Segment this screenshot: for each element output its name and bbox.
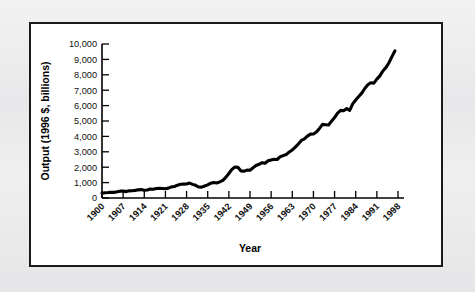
y-axis-tick-labels: 01,0002,0003,0004,0005,0006,0007,0008,00…	[69, 39, 97, 203]
y-axis-title: Output (1996 $, billions)	[39, 61, 51, 180]
line-chart: 01,0002,0003,0004,0005,0006,0007,0008,00…	[31, 24, 441, 265]
plot-area: 01,0002,0003,0004,0005,0006,0007,0008,00…	[31, 24, 441, 265]
x-tick-label: 1928	[169, 201, 191, 223]
y-tick-label: 8,000	[74, 70, 97, 80]
x-tick-label: 1921	[148, 201, 170, 223]
x-tick-label: 1998	[381, 201, 403, 223]
x-tick-label: 1942	[212, 201, 234, 223]
y-tick-label: 5,000	[74, 116, 97, 126]
x-tick-label: 1949	[233, 201, 255, 223]
x-tick-label: 1914	[127, 201, 149, 223]
y-tick-label: 6,000	[74, 101, 97, 111]
x-tick-label: 1970	[296, 201, 318, 223]
figure-frame: 01,0002,0003,0004,0005,0006,0007,0008,00…	[29, 22, 443, 267]
x-tick-label: 1991	[360, 201, 382, 223]
y-tick-label: 9,000	[74, 55, 97, 65]
y-tick-label: 2,000	[74, 163, 97, 173]
x-tick-label: 1907	[106, 201, 128, 223]
output-series-line	[102, 51, 395, 193]
x-tick-label: 1956	[254, 201, 276, 223]
x-axis-tick-labels: 1900190719141921192819351942194919561963…	[85, 201, 403, 223]
x-axis-ticks	[102, 191, 398, 198]
x-tick-label: 1935	[191, 201, 213, 223]
x-tick-label: 1900	[85, 201, 107, 223]
y-tick-label: 7,000	[74, 86, 97, 96]
y-tick-label: 3,000	[74, 147, 97, 157]
x-tick-label: 1963	[275, 201, 297, 223]
x-tick-label: 1977	[317, 201, 339, 223]
x-axis-title: Year	[239, 242, 261, 254]
x-tick-label: 1984	[339, 201, 361, 223]
y-axis-ticks	[102, 44, 109, 198]
y-tick-label: 1,000	[74, 178, 97, 188]
y-tick-label: 4,000	[74, 132, 97, 142]
y-tick-label: 0	[92, 193, 97, 203]
y-tick-label: 10,000	[69, 39, 97, 49]
